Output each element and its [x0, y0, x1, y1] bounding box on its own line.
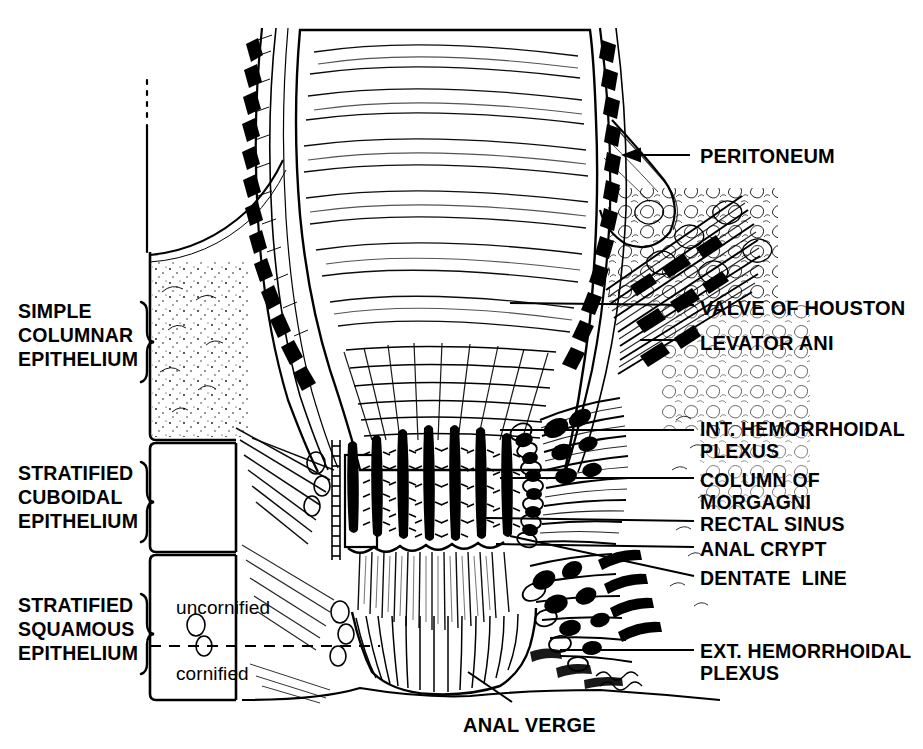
label-simple-columnar-epithelium: SIMPLE COLUMNAR EPITHELIUM: [18, 300, 138, 371]
anatomical-figure: SIMPLE COLUMNAR EPITHELIUM STRATIFIED CU…: [0, 0, 923, 749]
label-anal-verge: ANAL VERGE: [463, 714, 596, 737]
left-submucosal-hatching: [236, 428, 334, 703]
label-int-hemorrhoidal-plexus: INT. HEMORRHOIDAL PLEXUS: [700, 418, 905, 462]
label-peritoneum: PERITONEUM: [700, 145, 835, 168]
leader-anal-verge: [468, 672, 512, 702]
label-ext-hemorrhoidal-plexus: EXT. HEMORRHOIDAL PLEXUS: [700, 640, 911, 684]
label-stratified-cuboidal-epithelium: STRATIFIED CUBOIDAL EPITHELIUM: [18, 462, 138, 533]
label-rectal-sinus: RECTAL SINUS: [700, 513, 845, 535]
label-uncornified: uncornified: [176, 597, 270, 619]
illustration-canvas: [0, 0, 923, 749]
label-valve-of-houston: VALVE OF HOUSTON: [700, 297, 905, 320]
anal-verge-region: [242, 608, 720, 700]
label-levator-ani: LEVATOR ANI: [700, 332, 834, 355]
label-cornified: cornified: [176, 663, 249, 685]
label-column-of-morgagni: COLUMN OF MORGAGNI: [700, 469, 820, 513]
label-stratified-squamous-epithelium: STRATIFIED SQUAMOUS EPITHELIUM: [18, 594, 138, 665]
label-anal-crypt: ANAL CRYPT: [700, 538, 827, 560]
left-fat-cells: [187, 452, 354, 666]
label-dentate-line: DENTATE LINE: [700, 567, 847, 589]
